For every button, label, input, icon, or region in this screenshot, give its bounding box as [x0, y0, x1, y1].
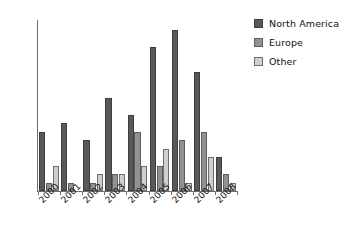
bar: [128, 115, 134, 192]
bar: [216, 157, 222, 191]
bar: [194, 72, 200, 191]
legend-item[interactable]: North America: [254, 14, 353, 33]
legend-swatch-icon: [254, 38, 263, 47]
x-tick-mark: [126, 191, 127, 195]
legend-label: Europe: [269, 38, 303, 48]
x-tick-mark: [193, 191, 194, 195]
bar: [150, 47, 156, 192]
bar: [134, 132, 140, 192]
plot-area: [38, 21, 237, 191]
bar: [39, 132, 45, 192]
legend-item[interactable]: Other: [254, 52, 353, 71]
chart-legend: North AmericaEuropeOther: [254, 14, 353, 71]
bar: [172, 30, 178, 192]
legend-swatch-icon: [254, 57, 263, 66]
x-tick-mark: [149, 191, 150, 195]
bar: [61, 123, 67, 191]
legend-item[interactable]: Europe: [254, 33, 353, 52]
legend-label: Other: [269, 57, 296, 67]
y-axis-ticks: 05101520: [0, 0, 38, 238]
legend-swatch-icon: [254, 19, 263, 28]
bar: [83, 140, 89, 191]
bar-chart: 05101520 2000200120022003200420052006200…: [0, 0, 353, 238]
x-tick-mark: [237, 191, 238, 195]
x-tick-mark: [171, 191, 172, 195]
legend-label: North America: [269, 19, 339, 29]
bar: [105, 98, 111, 192]
